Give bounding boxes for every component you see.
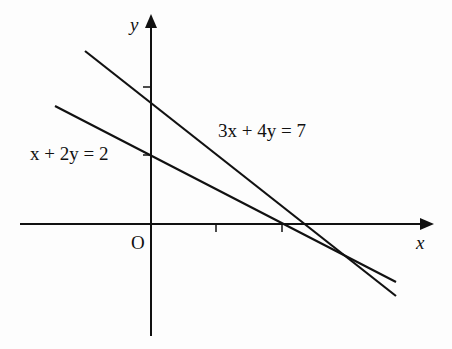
diagram-canvas: y x O 3x + 4y = 7 x + 2y = 2 — [0, 0, 452, 349]
x-axis-label: x — [416, 232, 424, 254]
y-axis-arrow-icon — [145, 14, 157, 28]
graph-svg — [0, 0, 452, 349]
line-label-x-2y-2: x + 2y = 2 — [30, 143, 108, 165]
line-3x-4y-7 — [85, 51, 396, 296]
y-axis-label: y — [130, 14, 138, 36]
line-label-3x-4y-7: 3x + 4y = 7 — [218, 120, 306, 142]
x-axis-arrow-icon — [420, 218, 434, 230]
origin-label: O — [131, 232, 145, 254]
